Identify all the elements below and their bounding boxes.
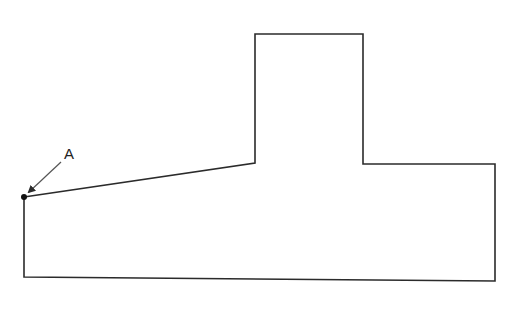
point-a-label: A: [64, 145, 74, 162]
point-a-marker: [21, 194, 27, 200]
diagram-canvas: A: [0, 0, 524, 311]
section-outline: [24, 34, 495, 281]
label-arrow-leader: [29, 162, 61, 192]
